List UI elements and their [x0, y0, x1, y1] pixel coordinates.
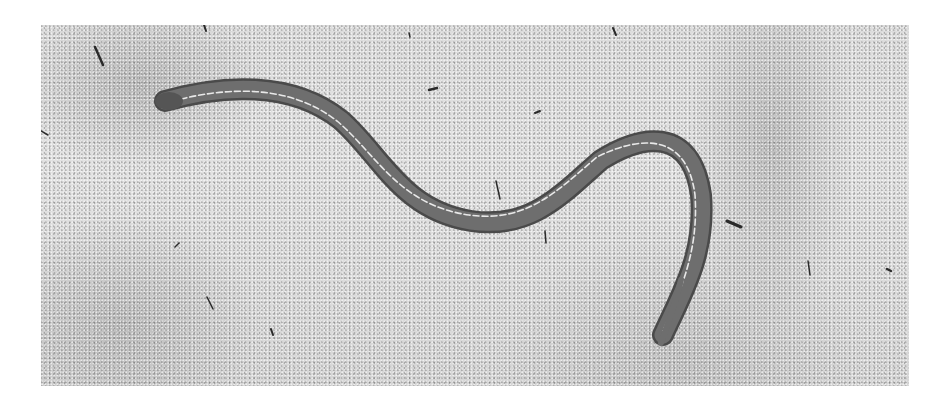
lizard-scene	[41, 25, 909, 386]
lizard	[155, 89, 702, 343]
debris	[41, 25, 891, 335]
photograph	[41, 25, 909, 386]
